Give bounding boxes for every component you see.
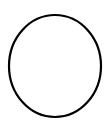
ellipse-diagram xyxy=(0,0,107,121)
ellipse-shape xyxy=(9,15,101,117)
diagram-canvas xyxy=(0,0,107,121)
